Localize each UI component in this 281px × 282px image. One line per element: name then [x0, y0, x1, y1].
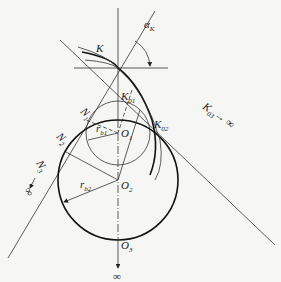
o2-to-n2	[66, 152, 118, 180]
label-n3: N3	[31, 157, 50, 175]
label-n1: N1	[76, 104, 95, 123]
diagram-canvas: K αK K01 K02 K03→ ∞ N1 N2 N3 ∞ O1 O2 O3 …	[0, 0, 281, 282]
label-rb2: rb2	[80, 178, 92, 193]
label-bottom-infinity: ∞	[113, 270, 121, 282]
label-rb1: rb1	[96, 122, 107, 137]
label-o1: O1	[121, 127, 132, 142]
involute-diagram: K αK K01 K02 K03→ ∞ N1 N2 N3 ∞ O1 O2 O3 …	[0, 0, 281, 282]
label-k01: K01	[120, 90, 135, 105]
label-k03: K03→ ∞	[198, 99, 237, 133]
label-n3-infinity: ∞	[22, 185, 36, 198]
label-o3: O3	[121, 239, 133, 254]
label-k: K	[95, 42, 104, 54]
alpha-arc	[135, 41, 150, 66]
label-alpha-k: αK	[144, 18, 155, 33]
label-o2: O2	[121, 179, 133, 194]
